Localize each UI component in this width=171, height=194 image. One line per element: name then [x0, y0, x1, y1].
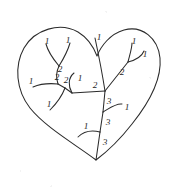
tree-edge-trunk-mid [100, 112, 103, 132]
edge-label: 3 [106, 96, 112, 106]
edge-label: 1 [132, 36, 137, 46]
heart-shaped-boundary [18, 27, 160, 160]
edge-label: 1 [97, 32, 102, 42]
diagram-canvas: 1 1 1 1 1 2 2 2 1 2 2 1 1 3 1 3 1 3 [0, 0, 171, 194]
tree-edge-center-hook [69, 73, 74, 93]
edge-label: 2 [64, 75, 69, 85]
tree-edge-down-left [50, 88, 65, 110]
edge-label: 1 [143, 49, 148, 59]
edge-label: 3 [105, 117, 111, 127]
edge-label: 1 [29, 76, 34, 86]
tree-edge-left-curl [78, 131, 100, 137]
edge-label: 1 [45, 36, 50, 46]
edge-label: 1 [84, 121, 89, 131]
edge-label: 2 [120, 67, 125, 77]
edge-label: 1 [66, 35, 71, 45]
tree-edge-far-left [33, 84, 58, 87]
edge-label: 1 [125, 102, 130, 112]
edge-label: 2 [58, 64, 63, 74]
edge-label-group: 1 1 1 1 1 2 2 2 1 2 2 1 1 3 1 3 1 3 [29, 32, 148, 147]
edge-label: 1 [47, 99, 52, 109]
tree-edge-trunk-upper [103, 91, 105, 112]
edge-label: 1 [78, 73, 83, 83]
tree-edge-fork-right [59, 43, 70, 66]
edge-label: 2 [93, 80, 98, 90]
edge-label: 3 [102, 137, 108, 147]
tree-edge-trunk-lower [96, 132, 100, 160]
tree-edge-node-bar [72, 91, 105, 93]
tree-in-heart-diagram: 1 1 1 1 1 2 2 2 1 2 2 1 1 3 1 3 1 3 [0, 0, 171, 194]
tree-edge-right-diag [105, 62, 128, 91]
tree-edge-fork-left [46, 44, 59, 66]
